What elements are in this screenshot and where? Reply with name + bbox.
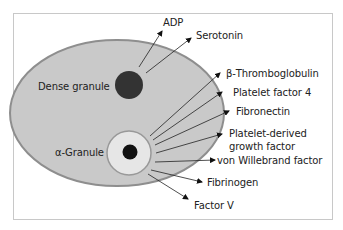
label-alpha-granule: α-Granule: [55, 147, 104, 158]
label-pdgf-line1: Platelet-derived: [229, 128, 307, 139]
label-factor-v: Factor V: [194, 200, 234, 211]
label-von-willebrand-factor: von Willebrand factor: [217, 155, 322, 166]
label-serotonin: Serotonin: [196, 30, 243, 41]
label-fibronectin: Fibronectin: [236, 106, 290, 117]
label-dense-granule: Dense granule: [38, 81, 110, 92]
platelet-diagram: [0, 0, 343, 230]
label-pdgf-line2: growth factor: [229, 141, 295, 152]
label-beta-thromboglobulin: β-Thromboglobulin: [226, 68, 319, 79]
dense-granule: [115, 71, 143, 99]
label-platelet-factor-4: Platelet factor 4: [233, 87, 311, 98]
alpha-granule-core: [123, 145, 138, 160]
label-fibrinogen: Fibrinogen: [207, 177, 258, 188]
label-adp: ADP: [163, 17, 183, 28]
